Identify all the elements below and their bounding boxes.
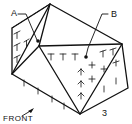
label-corner-3: 3 <box>102 109 107 118</box>
point-b-marker <box>84 55 88 59</box>
point-a-marker <box>36 39 40 43</box>
label-a: A <box>11 9 17 18</box>
label-b: B <box>111 10 117 19</box>
label-front: FRONT <box>3 115 33 123</box>
surface-hatch <box>14 31 119 109</box>
